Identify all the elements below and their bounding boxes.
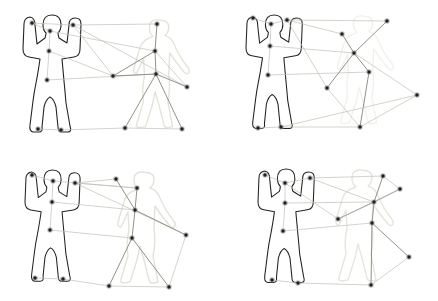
graph-node	[340, 32, 343, 35]
graph-node	[73, 181, 76, 184]
graph-node	[372, 200, 375, 203]
graph-node	[51, 179, 54, 182]
graph-node	[385, 19, 388, 22]
graph-node	[71, 23, 74, 26]
graph-node	[398, 187, 401, 190]
graph-node	[180, 127, 183, 130]
graph-edge	[372, 223, 409, 257]
graph-edge	[354, 53, 417, 95]
graph-node	[50, 200, 53, 203]
graph-node	[369, 283, 372, 286]
graph-node	[130, 236, 133, 239]
graph-edge	[371, 257, 409, 285]
graph-node	[296, 281, 299, 284]
graph-edge	[327, 53, 354, 88]
graph-node	[133, 208, 136, 211]
graph-edge	[298, 283, 371, 285]
graph-node	[325, 86, 328, 89]
graph-edge	[63, 279, 109, 286]
graph-node	[123, 126, 126, 129]
graph-node	[30, 21, 33, 24]
graph-node	[153, 49, 156, 52]
graph-node	[111, 74, 114, 77]
graph-node	[59, 128, 62, 131]
graph-edge	[113, 74, 156, 76]
graph-node	[263, 173, 266, 176]
graph-node	[36, 127, 39, 130]
graph-edge	[75, 179, 116, 183]
graph-node	[268, 44, 271, 47]
graph-node	[47, 49, 50, 52]
graph-node	[135, 186, 138, 189]
graph-node	[283, 181, 286, 184]
graph-node	[415, 93, 418, 96]
graph-node	[114, 177, 117, 180]
graph-edge	[354, 53, 369, 72]
graph-node	[370, 221, 373, 224]
human-silhouette	[258, 169, 314, 282]
graph-node	[336, 217, 339, 220]
panel-bottom-right	[258, 169, 412, 288]
graph-node	[285, 18, 288, 21]
ghost-silhouette	[134, 20, 190, 128]
graph-edge	[169, 235, 186, 287]
graph-node	[358, 125, 361, 128]
pose-graph-matching-figure	[0, 0, 438, 301]
graph-edge	[132, 238, 169, 287]
graph-edge	[125, 128, 182, 129]
graph-edge	[125, 74, 156, 128]
graph-edge	[338, 189, 400, 219]
graph-node	[167, 285, 170, 288]
graph-node	[155, 22, 158, 25]
graph-node	[381, 174, 384, 177]
graph-node	[407, 255, 410, 258]
graph-edge	[383, 176, 400, 189]
graph-node	[61, 277, 64, 280]
graph-node	[45, 78, 48, 81]
graph-node	[48, 29, 51, 32]
graph-edge	[156, 74, 187, 87]
panel-top-left	[23, 15, 190, 133]
graph-node	[185, 85, 188, 88]
graph-node	[33, 276, 36, 279]
figure-canvas	[0, 0, 438, 301]
ghost-silhouette	[338, 16, 394, 124]
graph-node	[308, 176, 311, 179]
graph-node	[281, 229, 284, 232]
graph-node	[184, 233, 187, 236]
graph-edge	[155, 51, 156, 74]
graph-node	[154, 72, 157, 75]
graph-node	[256, 126, 259, 129]
graph-edge	[116, 179, 135, 210]
graph-edge	[132, 210, 135, 238]
panel-bottom-left	[25, 170, 189, 290]
graph-edge	[155, 24, 157, 51]
graph-node	[266, 73, 269, 76]
graph-edge	[109, 286, 169, 287]
graph-edge	[360, 95, 417, 127]
graph-node	[279, 125, 282, 128]
graph-node	[270, 278, 273, 281]
panel-top-right	[246, 15, 420, 131]
graph-edge	[73, 24, 157, 25]
graph-node	[30, 173, 33, 176]
graph-node	[269, 22, 272, 25]
graph-node	[107, 284, 110, 287]
graph-edge	[327, 88, 360, 127]
ghost-silhouette	[118, 172, 175, 283]
graph-edge	[371, 223, 372, 285]
graph-node	[251, 16, 254, 19]
graph-node	[283, 201, 286, 204]
graph-node	[48, 228, 51, 231]
graph-node	[352, 51, 355, 54]
graph-node	[367, 70, 370, 73]
graph-edge	[135, 188, 137, 210]
